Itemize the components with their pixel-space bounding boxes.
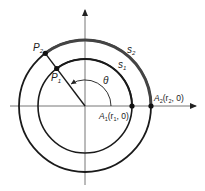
point-a1 (129, 103, 134, 108)
label-s1: s1 (118, 59, 126, 71)
label-a1: A1(r1, 0) (98, 111, 129, 122)
label-p1: P1 (51, 72, 61, 84)
label-p2: P2 (33, 42, 44, 54)
label-theta: θ (103, 75, 109, 86)
point-a2 (148, 103, 153, 108)
label-s2: s2 (127, 44, 136, 56)
polar-arc-diagram: P2 P1 s2 s1 θ A1(r1, 0) A2(r2, 0) (0, 0, 205, 191)
point-p2 (43, 51, 48, 56)
point-p1 (54, 66, 59, 71)
label-a2: A2(r2, 0) (153, 93, 184, 104)
